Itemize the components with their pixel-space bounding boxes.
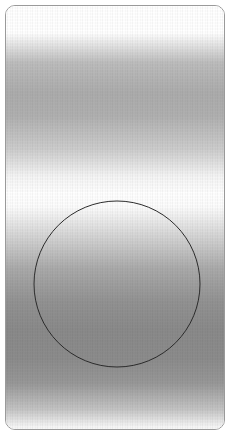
- canvas: [0, 0, 232, 439]
- circle-outline: [34, 201, 200, 367]
- vertical-stripe-dither-texture: [6, 6, 224, 429]
- circle-outline-svg: [6, 6, 225, 430]
- lower-gradient-band: [6, 192, 224, 430]
- rounded-rectangle-frame: [5, 5, 225, 430]
- upper-gradient-band: [6, 6, 224, 196]
- circle-layer: [6, 6, 225, 430]
